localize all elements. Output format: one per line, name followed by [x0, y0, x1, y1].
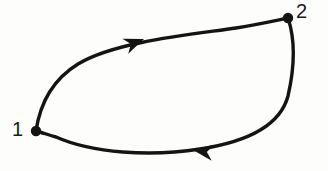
node-2-label: 2 — [296, 1, 307, 21]
arrowheads-group — [122, 32, 213, 161]
node-2-dot — [283, 13, 293, 23]
edges-group — [36, 18, 293, 153]
node-1-label: 1 — [12, 119, 23, 139]
node-1-dot — [31, 126, 41, 136]
graph-svg — [0, 0, 328, 171]
diagram-canvas: 1 2 — [0, 0, 328, 171]
edge-1-to-2 — [36, 18, 288, 131]
nodes-group — [31, 13, 293, 136]
